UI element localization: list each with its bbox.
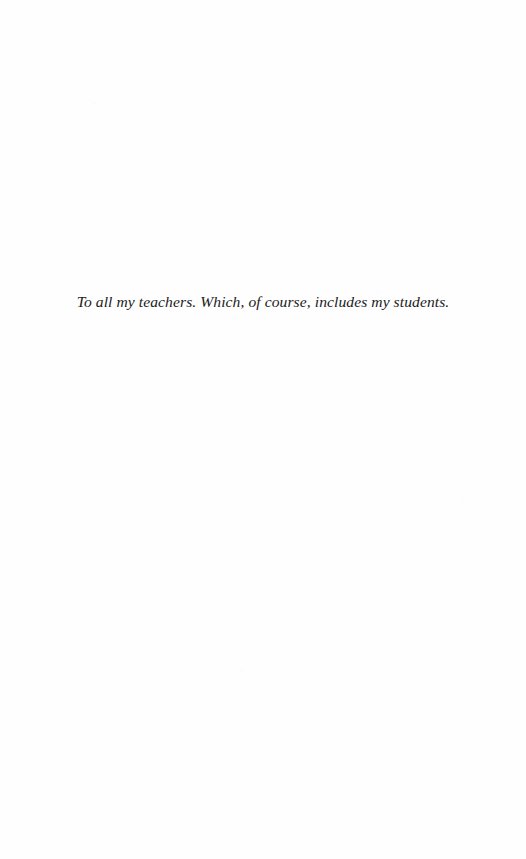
dedication-text: To all my teachers. Which, of course, in…	[77, 292, 450, 312]
dedication-block: To all my teachers. Which, of course, in…	[0, 292, 526, 312]
scanned-page: To all my teachers. Which, of course, in…	[0, 0, 526, 859]
